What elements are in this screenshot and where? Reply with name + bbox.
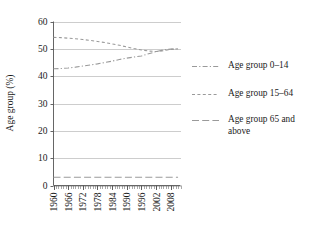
- legend-label-2: Age group 65 and: [228, 114, 295, 124]
- y-axis-tick-labels: 0102030405060: [38, 17, 48, 191]
- chart-figure: 0102030405060 19601966197219781984199019…: [0, 0, 317, 233]
- x-tick-label: 1972: [78, 192, 88, 211]
- chart-legend: Age group 0–14Age group 15–64Age group 6…: [192, 60, 295, 136]
- x-tick-label: 1960: [49, 192, 59, 211]
- y-tick-label: 60: [38, 17, 48, 27]
- legend-label-1: Age group 15–64: [228, 88, 293, 98]
- x-tick-label: 2008: [166, 192, 176, 211]
- x-tick-label: 1990: [122, 192, 132, 211]
- x-tick-label: 1996: [137, 192, 147, 211]
- legend-label-3: above: [228, 126, 250, 136]
- line-chart: 0102030405060 19601966197219781984199019…: [0, 0, 317, 233]
- y-tick-label: 20: [38, 126, 48, 136]
- x-tick-label: 2002: [152, 192, 162, 211]
- data-series-group: [54, 37, 179, 177]
- y-tick-label: 10: [38, 153, 48, 163]
- gridlines: [54, 23, 181, 187]
- legend-label-0: Age group 0–14: [228, 60, 289, 70]
- series-line-0: [54, 49, 179, 69]
- y-axis-title: Age group (%): [5, 75, 16, 132]
- x-tick-label: 1978: [93, 192, 103, 211]
- y-tick-label: 30: [38, 99, 48, 109]
- y-tick-label: 50: [38, 44, 48, 54]
- x-axis-tick-labels: 196019661972197819841990199620022008: [49, 192, 176, 211]
- x-tick-label: 1984: [108, 192, 118, 211]
- x-tick-label: 1966: [64, 192, 74, 211]
- y-tick-label: 0: [43, 181, 48, 191]
- y-tick-label: 40: [38, 71, 48, 81]
